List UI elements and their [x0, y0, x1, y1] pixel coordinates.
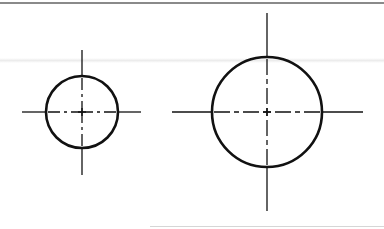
drawing-canvas: [0, 0, 384, 229]
small-circle-group: [22, 50, 141, 175]
technical-drawing: [0, 0, 384, 229]
large-circle-group: [172, 13, 363, 211]
